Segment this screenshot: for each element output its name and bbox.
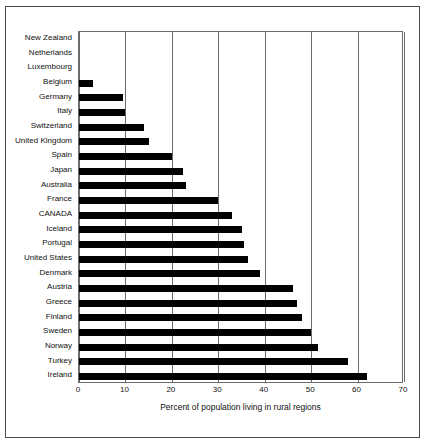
- x-tick-label: 70: [399, 385, 408, 394]
- bar: [79, 314, 302, 321]
- bar-row: [79, 193, 404, 208]
- bar-row: [79, 340, 404, 355]
- x-tick-label: 10: [120, 385, 129, 394]
- y-axis-label: Portugal: [42, 236, 72, 251]
- y-axis-label: Austria: [47, 280, 72, 295]
- bar-row: [79, 325, 404, 340]
- bar: [79, 373, 367, 380]
- bar-row: [79, 369, 404, 384]
- bar: [79, 226, 242, 233]
- y-axis-label: Ireland: [48, 368, 72, 383]
- bar-row: [79, 179, 404, 194]
- bar: [79, 329, 311, 336]
- bar-row: [79, 47, 404, 62]
- y-axis-label: France: [47, 192, 72, 207]
- bar-row: [79, 355, 404, 370]
- bar: [79, 182, 186, 189]
- bar: [79, 285, 293, 292]
- y-axis-label: Greece: [46, 295, 72, 310]
- y-axis-label: Australia: [41, 178, 72, 193]
- bar: [79, 109, 125, 116]
- bar-row: [79, 105, 404, 120]
- bar-row: [79, 32, 404, 47]
- y-axis-label: Iceland: [46, 222, 72, 237]
- bar: [79, 153, 172, 160]
- bar-row: [79, 311, 404, 326]
- y-axis-label: Spain: [52, 148, 72, 163]
- y-axis-label: Turkey: [48, 354, 72, 369]
- bar-series: [79, 32, 402, 382]
- bar-row: [79, 135, 404, 150]
- bar: [79, 256, 248, 263]
- x-tick-label: 60: [352, 385, 361, 394]
- y-axis-label: Switzerland: [31, 119, 72, 134]
- bar-row: [79, 223, 404, 238]
- bar: [79, 300, 297, 307]
- x-tick-label: 40: [259, 385, 268, 394]
- y-axis-label: United Kingdom: [15, 134, 72, 149]
- bar-row: [79, 76, 404, 91]
- bar-row: [79, 281, 404, 296]
- plot-area: [78, 31, 403, 383]
- x-tick-label: 20: [166, 385, 175, 394]
- bar: [79, 212, 232, 219]
- bar: [79, 197, 218, 204]
- chart-figure: New ZealandNetherlandsLuxembourgBelgiumG…: [0, 0, 426, 446]
- bar: [79, 94, 123, 101]
- bar: [79, 124, 144, 131]
- bar: [79, 168, 183, 175]
- y-axis-label: CANADA: [39, 207, 72, 222]
- y-axis-label: Luxembourg: [28, 60, 72, 75]
- bar-row: [79, 164, 404, 179]
- y-axis-category-labels: New ZealandNetherlandsLuxembourgBelgiumG…: [6, 31, 75, 383]
- x-axis-tick-labels: 010203040506070: [78, 385, 403, 397]
- bar-row: [79, 61, 404, 76]
- y-axis-label: Finland: [46, 310, 72, 325]
- y-axis-label: Belgium: [43, 75, 72, 90]
- y-axis-label: Japan: [50, 163, 72, 178]
- x-tick-label: 50: [306, 385, 315, 394]
- bar-row: [79, 267, 404, 282]
- y-axis-label: New Zealand: [25, 31, 72, 46]
- y-axis-label: Italy: [57, 104, 72, 119]
- bar: [79, 358, 348, 365]
- bar-row: [79, 149, 404, 164]
- bar-row: [79, 120, 404, 135]
- y-axis-label: Sweden: [43, 324, 72, 339]
- bar: [79, 241, 244, 248]
- bar: [79, 270, 260, 277]
- y-axis-label: Germany: [39, 90, 72, 105]
- y-axis-label: United States: [24, 251, 72, 266]
- y-axis-label: Norway: [45, 339, 72, 354]
- bar: [79, 80, 93, 87]
- x-tick-label: 30: [213, 385, 222, 394]
- bar-row: [79, 252, 404, 267]
- bar: [79, 138, 149, 145]
- x-axis-title: Percent of population living in rural re…: [78, 402, 403, 412]
- bar-row: [79, 208, 404, 223]
- bar-row: [79, 237, 404, 252]
- bar-row: [79, 91, 404, 106]
- y-axis-label: Netherlands: [29, 46, 72, 61]
- x-tick-label: 0: [76, 385, 80, 394]
- y-axis-label: Denmark: [40, 266, 72, 281]
- bar: [79, 344, 318, 351]
- bar-row: [79, 296, 404, 311]
